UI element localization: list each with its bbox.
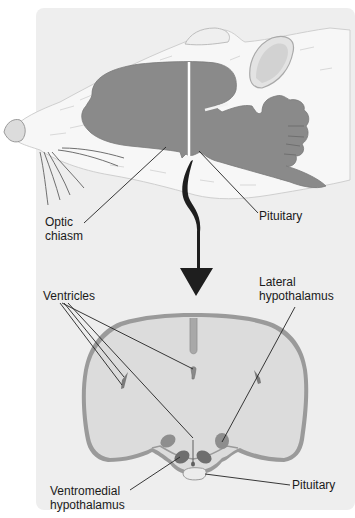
label-optic-chiasm-line1: Optic [45, 215, 83, 229]
figure-canvas [0, 0, 355, 518]
label-pituitary-bottom: Pituitary [292, 478, 335, 492]
label-lateral-hypothalamus: Lateral hypothalamus [259, 275, 334, 303]
label-ventromedial-hypothalamus-line2: hypothalamus [50, 498, 125, 512]
pituitary-section [183, 468, 206, 480]
rat-nose [4, 120, 25, 142]
coronal-section [82, 313, 308, 480]
label-optic-chiasm: Optic chiasm [45, 215, 83, 243]
label-pituitary-top: Pituitary [259, 209, 302, 223]
figure: Optic chiasm Pituitary Ventricles Latera… [0, 0, 355, 518]
right-lateral-hypothalamus [215, 433, 229, 449]
label-lateral-hypothalamus-line1: Lateral [259, 275, 334, 289]
label-ventromedial-hypothalamus: Ventromedial hypothalamus [50, 484, 125, 512]
label-ventricles: Ventricles [43, 289, 95, 303]
label-optic-chiasm-line2: chiasm [45, 229, 83, 243]
label-lateral-hypothalamus-line2: hypothalamus [259, 289, 334, 303]
label-ventromedial-hypothalamus-line1: Ventromedial [50, 484, 125, 498]
